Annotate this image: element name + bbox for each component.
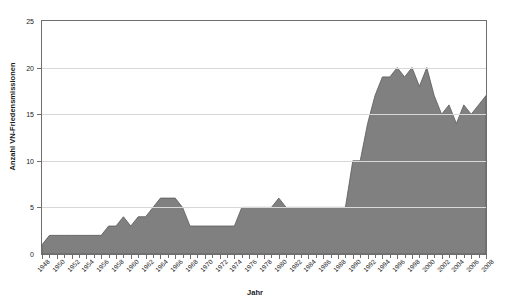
chart-container: Anzahl VN-Friedensmissionen 0510152025 1…: [0, 0, 510, 307]
area-series: [42, 21, 486, 254]
x-axis-title: Jahr: [0, 288, 510, 297]
gridline-y-5: [42, 207, 486, 208]
gridline-y-10: [42, 161, 486, 162]
gridline-y-20: [42, 68, 486, 69]
y-tick-label-5: 5: [30, 204, 34, 211]
y-tick-label-0: 0: [30, 251, 34, 258]
plot-area: [41, 20, 487, 255]
y-tick-label-25: 25: [26, 18, 34, 25]
x-axis-tick-labels: 1948195019521954195619581960196219641966…: [0, 258, 510, 292]
y-tick-label-10: 10: [26, 157, 34, 164]
gridline-y-15: [42, 114, 486, 115]
y-axis-tick-labels: 0510152025: [0, 0, 41, 275]
y-tick-label-15: 15: [26, 111, 34, 118]
y-tick-label-20: 20: [26, 64, 34, 71]
